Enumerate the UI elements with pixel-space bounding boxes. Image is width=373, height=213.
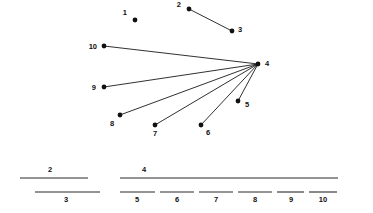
graph-node-4 (256, 62, 261, 67)
graph-node-10 (102, 44, 107, 49)
node-label-10: 10 (89, 42, 97, 51)
segment-label-7: 7 (214, 195, 218, 204)
segment-label-6: 6 (175, 195, 179, 204)
graph-edge-4-6 (201, 64, 258, 125)
node-label-3: 3 (238, 25, 242, 34)
graph-node-2 (187, 7, 192, 12)
segment-label-3: 3 (64, 195, 68, 204)
node-label-1: 1 (123, 8, 127, 17)
node-label-6: 6 (206, 128, 210, 137)
graph-node-6 (199, 123, 204, 128)
graph-node-5 (236, 99, 241, 104)
graph-edge-4-8 (120, 64, 258, 115)
segment-label-10: 10 (319, 195, 327, 204)
node-label-5: 5 (245, 100, 249, 109)
edges-layer (104, 9, 258, 125)
graph-edge-4-9 (104, 64, 258, 87)
graph-node-3 (230, 29, 235, 34)
segments-layer (20, 178, 338, 192)
segment-label-8: 8 (253, 195, 257, 204)
node-label-8: 8 (110, 119, 114, 128)
graph-edge-4-10 (104, 46, 258, 64)
segment-label-4: 4 (142, 165, 147, 174)
graph-node-9 (102, 85, 107, 90)
graph-figure: 12345678910 2435678910 (0, 0, 373, 213)
node-label-2: 2 (177, 0, 181, 9)
segment-label-5: 5 (135, 195, 139, 204)
figure-canvas: 12345678910 2435678910 (0, 0, 373, 213)
node-label-4: 4 (265, 59, 270, 68)
segment-labels-layer: 2435678910 (48, 165, 327, 204)
node-label-9: 9 (92, 83, 96, 92)
graph-node-8 (118, 113, 123, 118)
node-labels-layer: 12345678910 (89, 0, 270, 138)
graph-node-7 (153, 123, 158, 128)
graph-node-1 (133, 18, 138, 23)
node-label-7: 7 (153, 129, 157, 138)
segment-label-2: 2 (48, 165, 52, 174)
segment-label-9: 9 (289, 195, 293, 204)
graph-edge-4-7 (155, 64, 258, 125)
graph-edge-2-3 (189, 9, 232, 31)
